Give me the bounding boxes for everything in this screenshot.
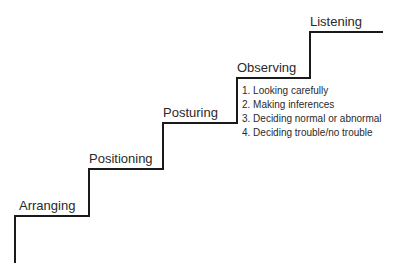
step-label-observing: Observing [237, 61, 296, 74]
step-label-positioning: Positioning [89, 152, 153, 165]
substep-item: 2. Making inferences [242, 98, 382, 112]
step-label-listening: Listening [310, 15, 362, 28]
substep-item: 1. Looking carefully [242, 84, 382, 98]
observing-substeps-list: 1. Looking carefully 2. Making inference… [242, 84, 382, 140]
substep-item: 3. Deciding normal or abnormal [242, 112, 382, 126]
step-label-arranging: Arranging [19, 199, 75, 212]
substep-item: 4. Deciding trouble/no trouble [242, 126, 382, 140]
step-label-posturing: Posturing [163, 106, 218, 119]
